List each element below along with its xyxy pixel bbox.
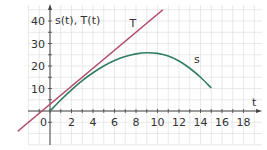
x-tick-label: 2 [68,116,75,129]
x-tick-label: 6 [111,116,118,129]
y-tick-label: 30 [31,38,45,51]
origin-label: 0 [40,116,47,129]
x-tick-label: 4 [90,116,97,129]
curve-label-s: s [194,53,200,66]
y-tick-label: 40 [31,15,45,28]
x-tick-label: 8 [133,116,140,129]
y-axis-arrow-icon [48,4,52,10]
function-plot: 2468101214161810203040 s(t), T(t) t 0 T … [0,0,267,150]
curve-label-T: T [129,17,137,30]
x-axis-arrow-icon [256,109,262,113]
x-tick-label: 10 [151,116,165,129]
x-tick-label: 12 [172,116,186,129]
y-tick-label: 20 [31,60,45,73]
y-tick-label: 10 [31,83,45,96]
x-tick-label: 14 [194,116,208,129]
x-axis-label: t [252,96,257,109]
x-tick-label: 16 [215,116,229,129]
x-tick-label: 18 [237,116,251,129]
y-axis-label: s(t), T(t) [55,14,100,27]
curve-s [50,53,211,111]
